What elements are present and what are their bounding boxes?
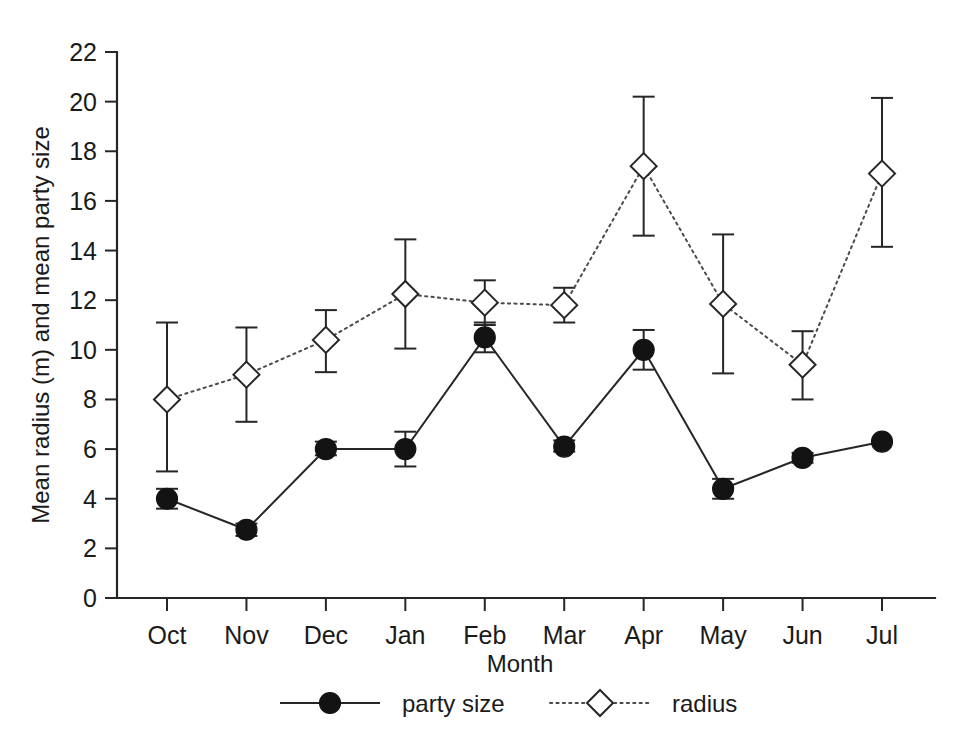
y-tick-label: 6 (83, 435, 97, 463)
y-tick-label: 20 (69, 88, 97, 116)
y-tick-label: 4 (83, 485, 97, 513)
data-point-circle (236, 519, 257, 540)
y-tick-label: 18 (69, 137, 97, 165)
x-tick-label: Oct (148, 621, 187, 649)
data-point-circle (315, 439, 336, 460)
x-tick-label: Apr (624, 621, 663, 649)
legend-marker-circle-icon (320, 693, 341, 714)
data-point-circle (474, 327, 495, 348)
x-tick-label: Mar (543, 621, 586, 649)
x-tick-label: Jan (385, 621, 425, 649)
x-tick-label: Nov (224, 621, 269, 649)
legend-label: radius (672, 690, 737, 717)
x-tick-label: Dec (304, 621, 348, 649)
x-tick-label: Feb (463, 621, 506, 649)
data-point-circle (872, 431, 893, 452)
chart-figure: 0246810121416182022 OctNovDecJanFebMarAp… (0, 0, 960, 752)
x-tick-label: Jul (866, 621, 898, 649)
line-chart-with-error-bars: 0246810121416182022 OctNovDecJanFebMarAp… (0, 0, 960, 752)
x-tick-label: Jun (782, 621, 822, 649)
y-tick-label: 10 (69, 336, 97, 364)
data-point-circle (713, 478, 734, 499)
y-tick-label: 22 (69, 38, 97, 66)
y-tick-label: 16 (69, 187, 97, 215)
y-tick-label: 14 (69, 237, 97, 265)
y-tick-label: 2 (83, 534, 97, 562)
y-tick-label: 8 (83, 385, 97, 413)
x-tick-label: May (699, 621, 747, 649)
data-point-circle (395, 439, 416, 460)
x-axis-title: Month (487, 650, 554, 677)
data-point-circle (157, 488, 178, 509)
legend-label: party size (402, 690, 505, 717)
y-tick-label: 0 (83, 584, 97, 612)
data-point-circle (554, 436, 575, 457)
y-axis-title: Mean radius (m) and mean party size (27, 126, 54, 524)
data-point-circle (633, 339, 654, 360)
data-point-circle (792, 447, 813, 468)
y-tick-label: 12 (69, 286, 97, 314)
